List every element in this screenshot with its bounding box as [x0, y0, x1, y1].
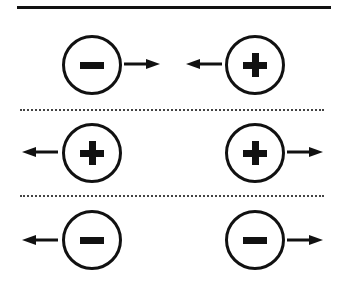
positive-charge-icon: + [62, 123, 122, 183]
minus-bar [243, 237, 267, 244]
minus-bar [80, 237, 104, 244]
row-label: opposite charges attract [0, 0, 1, 1]
minus-bar [80, 62, 104, 69]
plus-vertical-bar [252, 141, 259, 165]
arrow-right-icon [287, 233, 323, 247]
positive-charge-icon: + [225, 123, 285, 183]
divider-dotted [20, 109, 324, 111]
plus-vertical-bar [89, 141, 96, 165]
negative-charge-icon: - [225, 210, 285, 270]
arrow-left-icon [22, 145, 58, 159]
negative-charge-icon: - [62, 210, 122, 270]
top-rule [17, 6, 331, 9]
row-label: like negative charges repel [0, 0, 1, 1]
arrow-right-icon [287, 145, 323, 159]
arrow-left-icon [186, 57, 222, 71]
negative-charge-icon: - [62, 35, 122, 95]
arrow-left-icon [22, 233, 58, 247]
plus-vertical-bar [252, 53, 259, 77]
arrow-right-icon [124, 57, 160, 71]
row-label: like positive charges repel [0, 0, 1, 1]
divider-dotted [20, 195, 324, 197]
positive-charge-icon: + [225, 35, 285, 95]
